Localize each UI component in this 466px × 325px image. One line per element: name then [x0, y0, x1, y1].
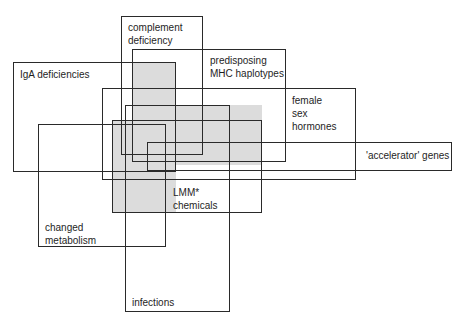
label-lmm-chemicals: LMM* chemicals [173, 186, 217, 212]
label-accelerator-genes: 'accelerator' genes [366, 149, 449, 162]
label-complement-deficiency: complement deficiency [128, 21, 182, 47]
label-iga-deficiencies: IgA deficiencies [20, 68, 90, 81]
label-changed-metabolism: changed metabolism [45, 221, 96, 247]
label-infections: infections [132, 296, 174, 309]
label-female-sex-hormones: female sex hormones [292, 94, 336, 133]
label-predisposing-mhc-haplotypes: predisposing MHC haplotypes [210, 54, 284, 80]
